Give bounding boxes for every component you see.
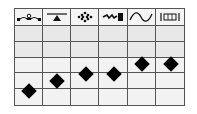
icon-comparison-grid bbox=[14, 8, 185, 106]
grid-cell bbox=[43, 26, 71, 42]
grid-cell bbox=[128, 89, 156, 105]
grid-cell bbox=[71, 89, 99, 105]
grid-cell bbox=[156, 26, 184, 42]
wave-breaker-icon bbox=[15, 9, 43, 26]
grid-cell bbox=[15, 58, 43, 74]
grid-cell bbox=[99, 26, 127, 42]
grid-cell bbox=[156, 89, 184, 105]
bracket-frame-icon bbox=[156, 9, 184, 26]
drill-bit-icon bbox=[99, 9, 127, 26]
grid-cell bbox=[15, 26, 43, 42]
seesaw-triangle-icon bbox=[43, 9, 71, 26]
grid-cell bbox=[128, 26, 156, 42]
grid-cell bbox=[71, 26, 99, 42]
dotted-cluster-icon bbox=[71, 9, 99, 26]
grid-cell bbox=[43, 58, 71, 74]
grid-cell bbox=[43, 42, 71, 58]
grid-cell bbox=[71, 42, 99, 58]
grid-cell bbox=[99, 89, 127, 105]
grid-cell bbox=[156, 42, 184, 58]
grid-cell bbox=[43, 89, 71, 105]
grid-cell bbox=[156, 73, 184, 89]
grid-cell bbox=[15, 42, 43, 58]
grid-cell bbox=[128, 73, 156, 89]
grid-cell bbox=[99, 42, 127, 58]
sine-wave-icon bbox=[128, 9, 156, 26]
